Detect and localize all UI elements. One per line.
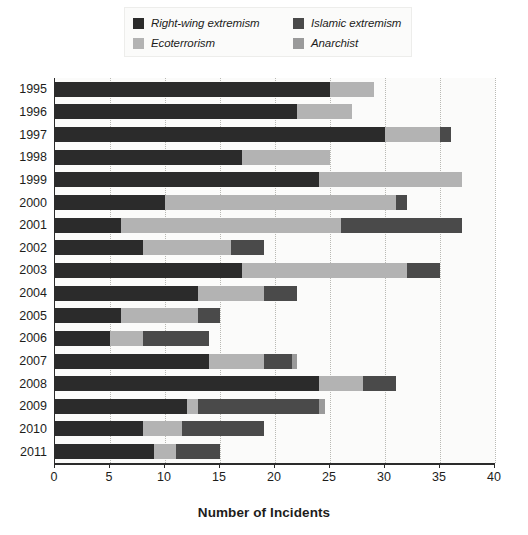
- x-axis-tick-label: 10: [157, 470, 171, 484]
- bar-segment: [143, 421, 182, 436]
- legend-item-grid: Right-wing extremismIslamic extremismEco…: [133, 13, 403, 53]
- bar-segment: [55, 376, 319, 391]
- bar-segment: [55, 354, 209, 369]
- plot-area: 1995199619971998199920002001200220032004…: [54, 78, 495, 463]
- y-axis-tick-label: 2009: [19, 399, 47, 413]
- legend-item: Ecoterrorism: [133, 37, 293, 49]
- x-axis-tick-label: 5: [106, 470, 113, 484]
- x-axis-tick-label: 40: [487, 470, 501, 484]
- bar-row: 1996: [55, 104, 495, 119]
- bar-row: 2005: [55, 308, 495, 323]
- bar-segment: [55, 172, 319, 187]
- bar-row: 2003: [55, 263, 495, 278]
- x-axis-tick: [164, 463, 165, 468]
- legend-item: Anarchist: [293, 37, 421, 49]
- bar-segment: [143, 331, 209, 346]
- bar-segment: [110, 331, 143, 346]
- x-axis-tick: [439, 463, 440, 468]
- gridline: [495, 78, 496, 463]
- x-axis-tick: [109, 463, 110, 468]
- plot-wrapper: 1995199619971998199920002001200220032004…: [54, 78, 494, 463]
- bar-segment: [363, 376, 396, 391]
- bar-segment: [198, 399, 319, 414]
- bar-segment: [55, 286, 198, 301]
- bar-row: 2000: [55, 195, 495, 210]
- bar-segment: [165, 195, 396, 210]
- y-axis-tick-label: 2010: [19, 422, 47, 436]
- bar-row: 2004: [55, 286, 495, 301]
- y-axis-tick-label: 2008: [19, 377, 47, 391]
- bar-segment: [55, 444, 154, 459]
- incidents-stacked-bar-chart: Right-wing extremismIslamic extremismEco…: [0, 0, 528, 535]
- bar-row: 2009: [55, 399, 495, 414]
- legend-label: Right-wing extremism: [151, 17, 260, 29]
- legend-label: Ecoterrorism: [151, 37, 215, 49]
- bar-row: 2007: [55, 354, 495, 369]
- bar-segment: [198, 286, 264, 301]
- y-axis-tick-label: 1998: [19, 150, 47, 164]
- bar-row: 2001: [55, 218, 495, 233]
- x-axis-tick: [219, 463, 220, 468]
- bar-row: 1997: [55, 127, 495, 142]
- y-axis-tick-label: 1996: [19, 105, 47, 119]
- bar-row: 2008: [55, 376, 495, 391]
- legend-swatch-icon: [293, 38, 304, 49]
- bar-segment: [440, 127, 451, 142]
- x-axis-tick-label: 15: [212, 470, 226, 484]
- legend-label: Islamic extremism: [311, 17, 401, 29]
- bar-segment: [55, 399, 187, 414]
- bar-rows: 1995199619971998199920002001200220032004…: [55, 78, 495, 463]
- x-axis-line: 0510152025303540: [54, 463, 494, 465]
- bar-segment: [55, 263, 242, 278]
- chart-legend: Right-wing extremismIslamic extremismEco…: [124, 7, 412, 57]
- bar-segment: [209, 354, 264, 369]
- y-axis-tick-label: 2004: [19, 286, 47, 300]
- bar-segment: [121, 308, 198, 323]
- y-axis-tick-label: 2005: [19, 309, 47, 323]
- bar-row: 2011: [55, 444, 495, 459]
- bar-row: 1999: [55, 172, 495, 187]
- bar-segment: [121, 218, 341, 233]
- legend-swatch-icon: [293, 18, 304, 29]
- bar-segment: [385, 127, 440, 142]
- legend-swatch-icon: [133, 38, 144, 49]
- bar-row: 1998: [55, 150, 495, 165]
- x-axis-tick: [329, 463, 330, 468]
- y-axis-tick-label: 1999: [19, 173, 47, 187]
- bar-segment: [292, 354, 298, 369]
- bar-row: 2002: [55, 240, 495, 255]
- bar-segment: [55, 421, 143, 436]
- bar-segment: [55, 195, 165, 210]
- x-axis-tick: [54, 463, 55, 468]
- bar-segment: [297, 104, 352, 119]
- bar-segment: [55, 104, 297, 119]
- bar-segment: [264, 286, 297, 301]
- bar-segment: [264, 354, 292, 369]
- y-axis-tick-label: 2006: [19, 331, 47, 345]
- legend-swatch-icon: [133, 18, 144, 29]
- bar-segment: [198, 308, 220, 323]
- x-axis-tick: [274, 463, 275, 468]
- bar-segment: [55, 218, 121, 233]
- bar-segment: [182, 421, 265, 436]
- y-axis-tick-label: 2007: [19, 354, 47, 368]
- y-axis-tick-label: 2000: [19, 196, 47, 210]
- y-axis-tick-label: 1997: [19, 128, 47, 142]
- bar-segment: [407, 263, 440, 278]
- bar-segment: [55, 150, 242, 165]
- x-axis-tick-label: 30: [377, 470, 391, 484]
- x-axis-title: Number of Incidents: [0, 505, 528, 520]
- bar-row: 2010: [55, 421, 495, 436]
- bar-segment: [319, 376, 363, 391]
- x-axis-tick-label: 0: [51, 470, 58, 484]
- bar-segment: [176, 444, 220, 459]
- bar-segment: [143, 240, 231, 255]
- bar-row: 2006: [55, 331, 495, 346]
- bar-segment: [319, 399, 325, 414]
- bar-segment: [154, 444, 176, 459]
- bar-segment: [55, 331, 110, 346]
- x-axis-tick-label: 35: [432, 470, 446, 484]
- bar-row: 1995: [55, 82, 495, 97]
- x-axis-tick-label: 20: [267, 470, 281, 484]
- bar-segment: [341, 218, 462, 233]
